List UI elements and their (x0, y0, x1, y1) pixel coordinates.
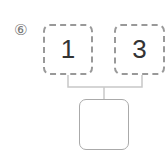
answer-box[interactable] (79, 99, 129, 150)
number-box-left: 1 (43, 24, 93, 75)
number-box-right: 3 (114, 24, 165, 75)
number-right: 3 (132, 34, 146, 65)
number-left: 1 (61, 34, 75, 65)
